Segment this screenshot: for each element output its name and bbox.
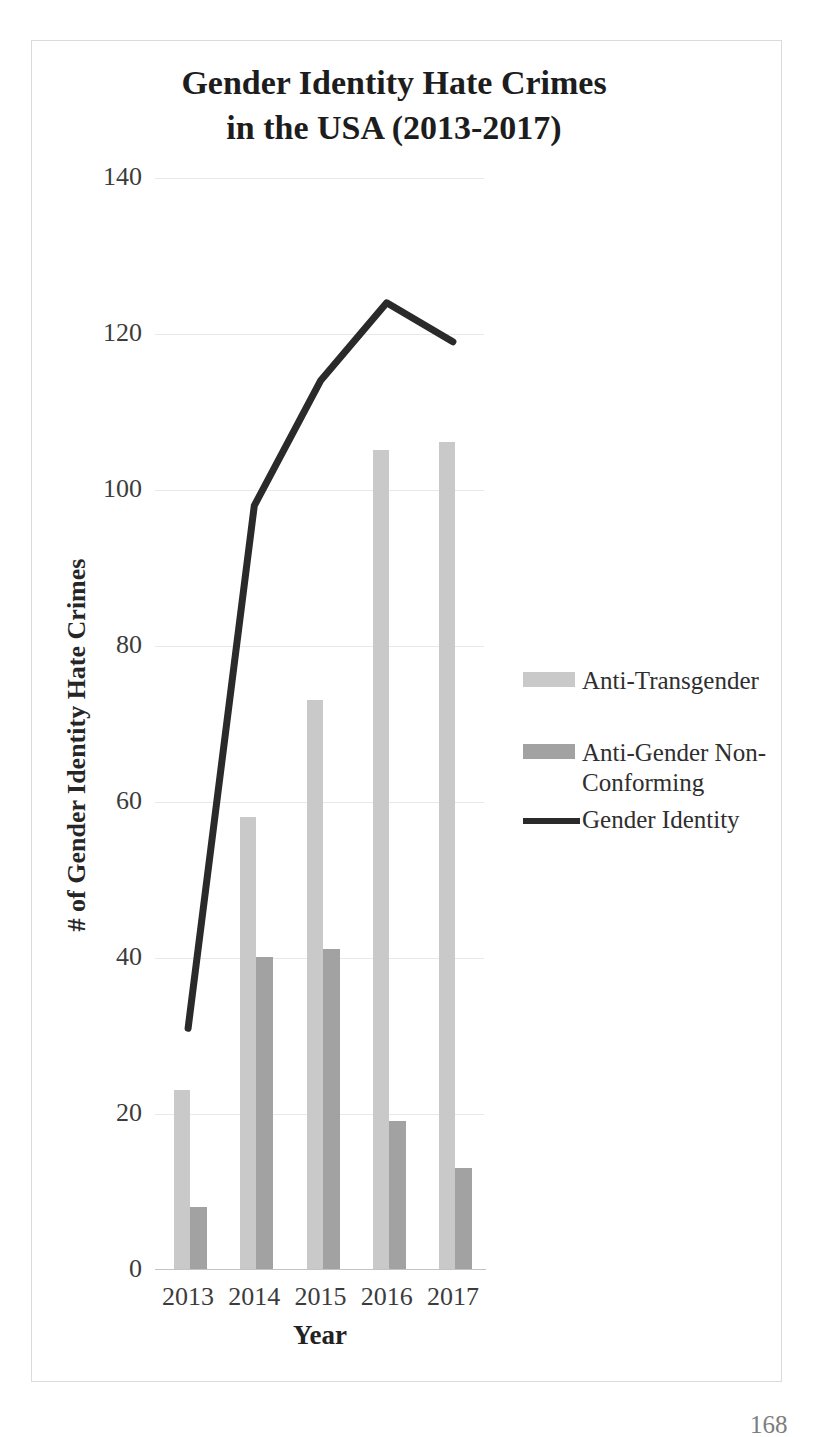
legend-label-line: Conforming	[582, 768, 785, 798]
legend-label-line: Gender Identity	[582, 805, 785, 835]
x-tick-label-2013: 2013	[162, 1282, 214, 1312]
y-tick-label-60: 60	[116, 786, 142, 816]
x-tick-label-2015: 2015	[295, 1282, 347, 1312]
x-tick-label-2017: 2017	[427, 1282, 479, 1312]
legend-label: Anti-Transgender	[582, 666, 785, 696]
y-tick-label-140: 140	[103, 162, 142, 192]
x-tick-label-2016: 2016	[361, 1282, 413, 1312]
x-tick-label-2014: 2014	[228, 1282, 280, 1312]
y-tick-label-20: 20	[116, 1098, 142, 1128]
legend-label-line: Anti-Gender Non-	[582, 738, 785, 768]
x-axis-title: Year	[293, 1320, 347, 1351]
y-axis-title: # of Gender Identity Hate Crimes	[62, 559, 92, 932]
legend-item-anti-transgender: Anti-Transgender	[523, 666, 785, 696]
y-tick-label-40: 40	[116, 942, 142, 972]
legend-line-swatch-gender-identity	[523, 818, 580, 824]
legend-bar-swatch-anti-transgender	[523, 672, 575, 687]
legend: Anti-TransgenderAnti-Gender Non-Conformi…	[523, 0, 785, 1421]
y-tick-label-100: 100	[103, 474, 142, 504]
y-tick-label-80: 80	[116, 630, 142, 660]
page-number: 168	[750, 1411, 788, 1437]
legend-label-line: Anti-Transgender	[582, 666, 785, 696]
y-tick-label-0: 0	[129, 1254, 142, 1284]
legend-bar-swatch-anti-gender-non-conforming	[523, 744, 575, 759]
legend-label: Anti-Gender Non-Conforming	[582, 738, 785, 798]
legend-item-anti-gender-non-conforming: Anti-Gender Non-Conforming	[523, 738, 785, 798]
line-series-gender-identity	[155, 178, 486, 1270]
legend-label: Gender Identity	[582, 805, 785, 835]
y-tick-label-120: 120	[103, 318, 142, 348]
legend-item-gender-identity: Gender Identity	[523, 805, 785, 835]
gender-identity-line	[188, 303, 453, 1028]
plot-area: 20132014201520162017	[155, 178, 486, 1270]
